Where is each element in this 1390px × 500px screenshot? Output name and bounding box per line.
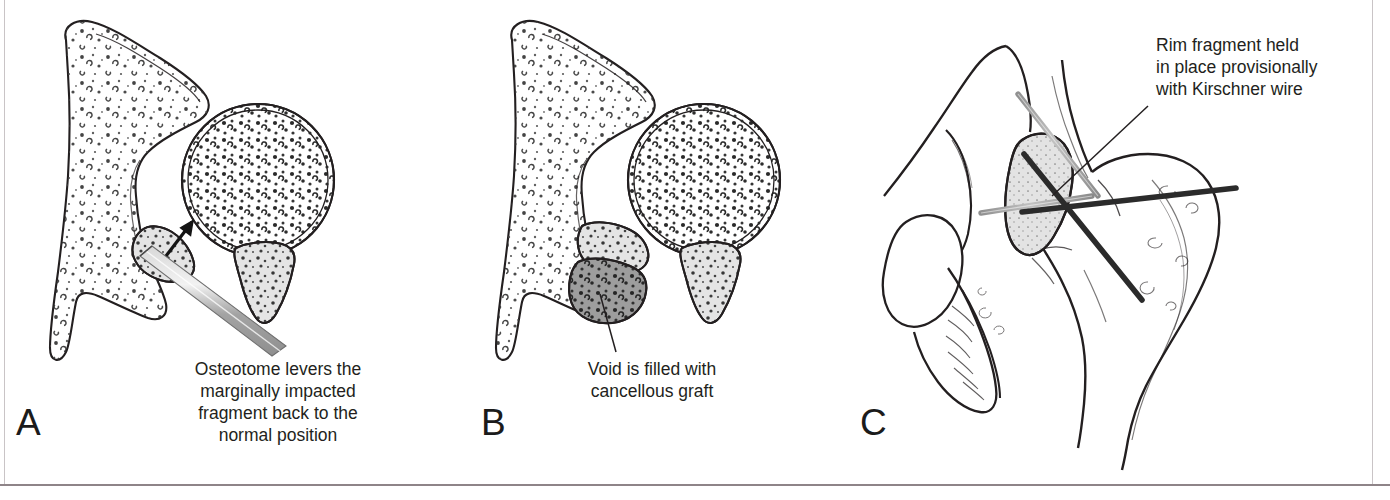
panel-c-caption: Rim fragment held in place provisionally… — [1156, 34, 1386, 100]
panel-c-rim-fragment — [1000, 126, 1082, 262]
surgical-technique-figure: A Osteotome levers the marginally impact… — [0, 0, 1390, 500]
panel-label-c: C — [860, 404, 887, 441]
panel-c-proximal-femur — [1032, 60, 1219, 470]
